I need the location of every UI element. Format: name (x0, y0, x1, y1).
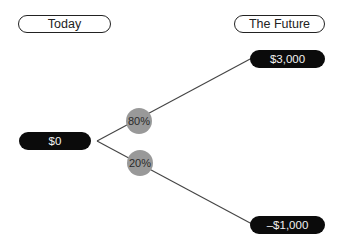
branch-line-up (97, 58, 252, 141)
outcome-node-gain: $3,000 (250, 50, 325, 68)
outcome-node-loss: –$1,000 (250, 216, 325, 234)
branch-lines (0, 0, 344, 249)
probability-node-down: 20% (127, 150, 153, 176)
future-header: The Future (234, 15, 325, 33)
probability-node-up: 80% (126, 108, 152, 134)
root-node: $0 (19, 132, 91, 150)
branch-line-down (97, 141, 252, 224)
today-header: Today (18, 15, 111, 33)
